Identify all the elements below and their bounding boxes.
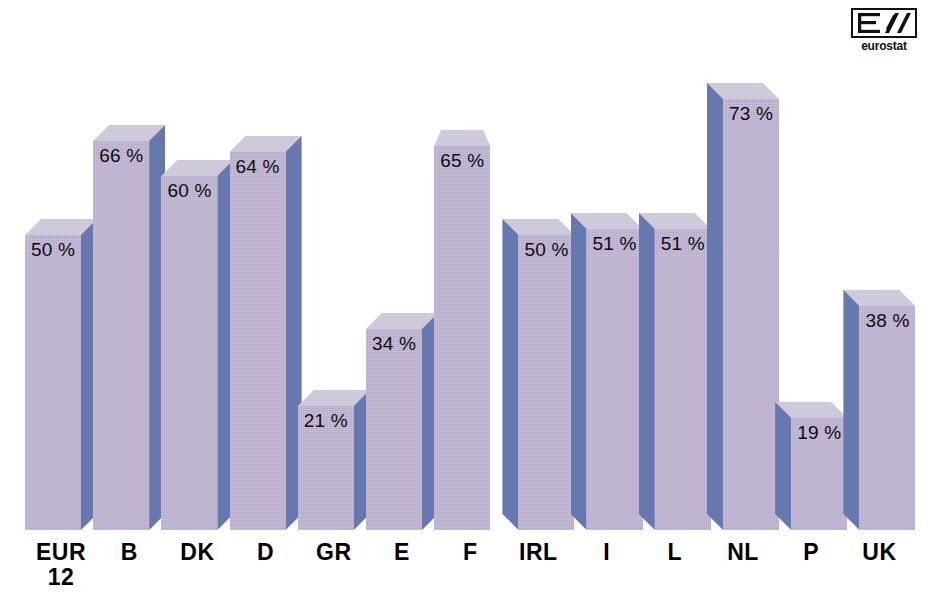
bar-side-face [775,402,791,530]
bar-irl: 50 % [518,235,574,530]
bar-b: 66 % [93,141,149,530]
category-label-line1: UK [862,539,896,565]
category-label-line1: P [803,539,819,565]
bar-f: 65 % [434,146,490,530]
category-label-line2: 12 [19,565,103,590]
eurostat-wordmark: eurostat [850,39,918,53]
bar-dk: 60 % [161,176,217,530]
bar-front-face [230,152,286,530]
bar-top-face [434,130,490,146]
bar-side-face [639,213,655,530]
bar-value-label: 38 % [865,310,909,332]
bar-d: 64 % [230,152,286,530]
bar-value-label: 65 % [440,150,484,172]
category-label-line1: GR [316,539,352,565]
bar-side-face [843,290,859,530]
bar-front-face [25,235,81,530]
bar-value-label: 34 % [372,333,416,355]
category-label-line1: DK [180,539,214,565]
category-label-line1: IRL [519,539,558,565]
bar-value-label: 64 % [236,156,280,178]
bar-value-label: 50 % [524,239,568,261]
category-label-line1: B [121,539,138,565]
bar-front-face [161,176,217,530]
bar-i: 51 % [587,229,643,530]
category-label-line1: E [394,539,410,565]
bar-value-label: 50 % [31,239,75,261]
bar-nl: 73 % [723,99,779,530]
eurostat-mark-icon [851,8,917,38]
bar-value-label: 21 % [304,410,348,432]
bar-p: 19 % [791,418,847,530]
bar-front-face [859,306,915,530]
bar-value-label: 73 % [729,103,773,125]
bar-front-face [366,329,422,530]
bar-uk: 38 % [859,306,915,530]
bar-gr: 21 % [298,406,354,530]
bar-value-label: 51 % [661,233,705,255]
bar-side-face [502,219,518,530]
bar-eur12: 50 % [25,235,81,530]
bar-value-label: 19 % [797,422,841,444]
bar-side-face [707,83,723,530]
bar-front-face [434,146,490,530]
category-label-line1: D [257,539,274,565]
bar-front-face [93,141,149,530]
eurostat-logo: eurostat [850,8,918,53]
bar-value-label: 66 % [99,145,143,167]
bar-front-face [587,229,643,530]
category-label-uk: UK [837,540,921,565]
bar-value-label: 51 % [593,233,637,255]
category-axis: EUR12BDKDGREFIRLILNLPUK [0,532,928,602]
category-label-line1: NL [727,539,759,565]
bar-l: 51 % [655,229,711,530]
category-label-line1: EUR [36,539,86,565]
bar-front-face [723,99,779,530]
bar-front-face [655,229,711,530]
category-label-line1: I [603,539,610,565]
bar-side-face [571,213,587,530]
plot-area: 50 %66 %60 %64 %21 %34 %65 %50 %51 %51 %… [0,0,928,532]
chart-root: 50 %66 %60 %64 %21 %34 %65 %50 %51 %51 %… [0,0,928,602]
category-label-line1: L [668,539,683,565]
bar-front-face [518,235,574,530]
category-label-line1: F [463,539,478,565]
bar-value-label: 60 % [167,180,211,202]
bar-e: 34 % [366,329,422,530]
